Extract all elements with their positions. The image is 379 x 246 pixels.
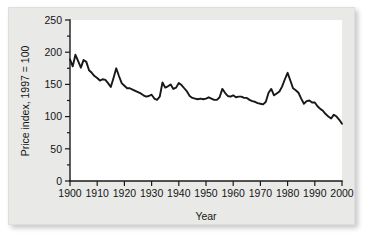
x-tick-label: 1900 xyxy=(58,187,82,199)
x-tick-label: 1940 xyxy=(167,187,191,199)
y-tick-label: 100 xyxy=(44,110,62,122)
x-tick-label: 2000 xyxy=(330,187,354,199)
x-tick-label: 1960 xyxy=(222,187,246,199)
x-axis-title: Year xyxy=(195,210,217,222)
y-tick-label: 200 xyxy=(44,46,62,58)
x-tick-label: 1990 xyxy=(303,187,327,199)
x-axis-tick-labels: 1900191019201930194019501960197019801990… xyxy=(58,187,354,199)
y-tick-label: 0 xyxy=(56,175,62,187)
y-tick-label: 50 xyxy=(50,143,62,155)
price-index-line-chart: 050100150200250 190019101920193019401950… xyxy=(9,8,356,226)
x-tick-label: 1910 xyxy=(86,187,110,199)
x-tick-label: 1970 xyxy=(249,187,273,199)
figure-panel: 050100150200250 190019101920193019401950… xyxy=(8,7,355,225)
x-tick-label: 1920 xyxy=(113,187,137,199)
y-axis-tick-labels: 050100150200250 xyxy=(44,14,62,187)
y-tick-label: 150 xyxy=(44,78,62,90)
x-tick-label: 1950 xyxy=(194,187,218,199)
y-tick-label: 250 xyxy=(44,14,62,26)
y-axis-title: Price index, 1997 = 100 xyxy=(19,46,31,157)
x-tick-label: 1930 xyxy=(140,187,164,199)
x-tick-label: 1980 xyxy=(276,187,300,199)
